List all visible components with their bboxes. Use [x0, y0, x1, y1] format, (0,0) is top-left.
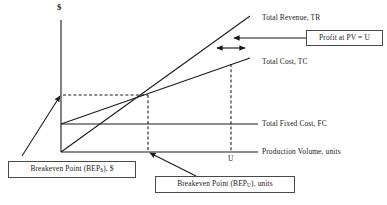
total-revenue-label: Total Revenue, TR	[262, 14, 320, 21]
breakeven-units-callout-text: Breakeven Point (BEPU), units	[177, 180, 273, 188]
bep-units-suffix: ), units	[251, 179, 273, 188]
breakeven-dollars-leader	[22, 96, 60, 156]
bep-units-prefix: Breakeven Point (BEP	[177, 179, 247, 188]
breakeven-units-leader	[150, 153, 196, 176]
breakeven-dollars-callout-text: Breakeven Point (BEP$), $	[30, 165, 113, 173]
bep-dollars-suffix: ), $	[103, 164, 113, 173]
y-axis-label: $	[57, 3, 61, 12]
breakeven-dollars-callout-box: Breakeven Point (BEP$), $	[8, 161, 136, 178]
total-cost-line	[61, 58, 250, 124]
total-revenue-line	[61, 16, 250, 152]
breakeven-chart: $ U Total Revenue, TR Total Cost, TC Tot…	[0, 0, 387, 205]
x-tick-label-u: U	[228, 155, 234, 162]
bep-dollars-prefix: Breakeven Point (BEP	[30, 164, 100, 173]
profit-callout-box: Profit at PV = U	[306, 30, 383, 46]
total-cost-label: Total Cost, TC	[262, 58, 308, 65]
total-fixed-cost-label: Total Fixed Cost, FC	[262, 120, 327, 127]
breakeven-units-callout-box: Breakeven Point (BEPU), units	[155, 176, 295, 193]
production-volume-label: Production Volume, units	[262, 148, 341, 155]
profit-callout-text: Profit at PV = U	[319, 34, 370, 41]
